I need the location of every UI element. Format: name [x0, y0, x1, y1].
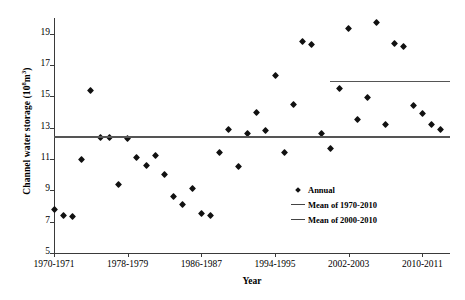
y-tick-mark	[50, 65, 54, 66]
y-tick-label: 19	[41, 27, 51, 37]
data-point	[281, 149, 288, 156]
data-point	[161, 171, 168, 178]
x-axis-line	[54, 253, 450, 254]
data-point	[354, 116, 361, 123]
data-point	[179, 201, 186, 208]
diamond-marker-icon	[288, 188, 308, 192]
data-point	[437, 126, 444, 133]
y-tick-label: 7	[45, 215, 50, 225]
data-point	[428, 121, 435, 128]
x-tick-mark	[275, 253, 276, 257]
x-tick-label: 1978-1979	[107, 259, 148, 269]
data-point	[216, 149, 223, 156]
data-point	[69, 213, 76, 220]
line-marker-icon	[288, 204, 308, 205]
data-point	[189, 185, 196, 192]
data-point	[143, 162, 150, 169]
data-point	[133, 154, 140, 161]
y-tick-mark	[50, 34, 54, 35]
x-tick-mark	[349, 253, 350, 257]
data-point	[87, 87, 94, 94]
mean-line	[54, 136, 450, 137]
x-tick-label: 2010-2011	[402, 259, 443, 269]
x-tick-mark	[128, 253, 129, 257]
data-point	[336, 85, 343, 92]
legend-label: Mean of 1970-2010	[308, 200, 377, 210]
y-tick-mark	[50, 128, 54, 129]
y-axis-title: Channel water storage (108m3)	[20, 31, 32, 231]
x-tick-label: 1986-1987	[181, 259, 222, 269]
data-point	[78, 155, 85, 162]
y-tick-label: 17	[41, 58, 51, 68]
y-axis-title-exponent-2: 3	[20, 71, 27, 74]
y-axis-title-unit: m	[22, 74, 32, 82]
data-point	[235, 163, 242, 170]
data-point	[364, 94, 371, 101]
x-tick-label: 1994-1995	[254, 259, 295, 269]
y-tick-mark	[50, 96, 54, 97]
data-point	[391, 40, 398, 47]
data-point	[400, 43, 407, 50]
data-point	[419, 110, 426, 117]
plot-area: 5791113151719 1970-19711978-19791986-198…	[54, 18, 450, 254]
y-axis-title-exponent: 8	[20, 82, 27, 85]
data-point	[198, 210, 205, 217]
data-point	[262, 127, 269, 134]
y-axis-title-paren: )	[22, 67, 32, 70]
data-point	[410, 102, 417, 109]
legend-item-annual: Annual	[288, 182, 377, 197]
data-point	[170, 193, 177, 200]
y-tick-label: 13	[41, 121, 51, 131]
y-tick-label: 11	[41, 152, 50, 162]
data-point	[290, 101, 297, 108]
line-marker-icon	[288, 219, 308, 220]
legend-label: Annual	[308, 185, 335, 195]
data-point	[271, 72, 278, 79]
y-tick-label: 5	[45, 246, 50, 256]
data-point	[253, 108, 260, 115]
data-point	[373, 19, 380, 26]
y-tick-label: 15	[41, 89, 51, 99]
data-point	[308, 41, 315, 48]
data-point	[207, 212, 214, 219]
chart-figure: Channel water storage (108m3) 5791113151…	[0, 0, 465, 300]
data-point	[382, 121, 389, 128]
x-tick-mark	[422, 253, 423, 257]
y-axis-title-text: Channel water storage (10	[22, 85, 32, 194]
y-tick-mark	[50, 159, 54, 160]
x-axis-title: Year	[54, 276, 450, 286]
x-tick-mark	[201, 253, 202, 257]
mean-line	[330, 81, 450, 82]
data-point	[345, 25, 352, 32]
data-point	[225, 126, 232, 133]
data-point	[327, 144, 334, 151]
y-tick-mark	[50, 222, 54, 223]
x-tick-mark	[54, 253, 55, 257]
x-tick-label: 2002-2003	[328, 259, 369, 269]
legend-item-mean-2000-2010: Mean of 2000-2010	[288, 212, 377, 227]
y-tick-mark	[50, 190, 54, 191]
y-tick-label: 9	[45, 183, 50, 193]
legend-item-mean-1970-2010: Mean of 1970-2010	[288, 197, 377, 212]
chart-legend: Annual Mean of 1970-2010 Mean of 2000-20…	[288, 182, 377, 227]
data-point	[299, 38, 306, 45]
data-point	[152, 152, 159, 159]
x-tick-label: 1970-1971	[33, 259, 74, 269]
legend-label: Mean of 2000-2010	[308, 215, 377, 225]
data-point	[50, 206, 57, 213]
data-point	[60, 212, 67, 219]
data-point	[115, 181, 122, 188]
